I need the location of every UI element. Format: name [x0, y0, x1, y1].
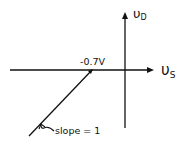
transfer-characteristic-diagram: υD υS -0.7V slope = 1 — [0, 0, 196, 149]
y-axis-arrowhead-icon — [122, 12, 128, 19]
slope-label: slope = 1 — [55, 125, 100, 136]
breakpoint-label: -0.7V — [80, 56, 106, 67]
y-axis-label: υD — [133, 6, 147, 22]
x-axis-arrowhead-icon — [147, 67, 154, 73]
x-axis-label: υS — [161, 61, 176, 80]
